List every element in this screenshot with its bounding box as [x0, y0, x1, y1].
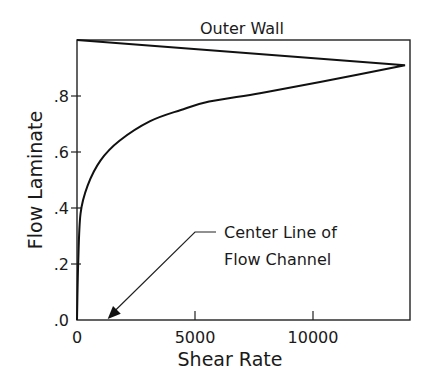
y-tick-label: .0: [54, 311, 69, 330]
y-tick-label: .4: [54, 199, 69, 218]
y-axis-label: Flow Laminate: [24, 111, 46, 249]
y-tick-label: .8: [54, 87, 69, 106]
data-series: [77, 40, 405, 320]
shear-rate-curve: [77, 40, 405, 320]
arrowhead-icon: [108, 306, 121, 319]
annotation: Center Line ofFlow Channel: [108, 223, 337, 319]
annotation-leader-line: [114, 232, 216, 312]
plot-frame: [77, 40, 410, 320]
chart-title: Outer Wall: [200, 19, 284, 38]
x-tick-label: 0: [72, 328, 82, 347]
chart: .0.2.4.6.8 0500010000 Center Line ofFlow…: [0, 0, 428, 386]
x-tick-label: 10000: [288, 328, 339, 347]
annotation-text: Flow Channel: [224, 250, 331, 269]
plot-border: [77, 40, 410, 320]
y-tick-label: .6: [54, 143, 69, 162]
annotation-text: Center Line of: [224, 223, 337, 242]
x-axis-label: Shear Rate: [178, 348, 283, 370]
x-tick-label: 5000: [175, 328, 216, 347]
y-tick-label: .2: [54, 255, 69, 274]
